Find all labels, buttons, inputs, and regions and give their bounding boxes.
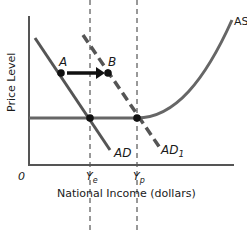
ad1-curve [83, 35, 160, 148]
point-b [104, 69, 112, 77]
yp-subscript: p [139, 176, 145, 185]
x-axis-label: National Income (dollars) [57, 187, 196, 200]
ad-label: AD [113, 146, 131, 160]
y-axis-label: Price Level [5, 53, 18, 112]
ad-curve [35, 38, 110, 150]
yp-tick-label: Yp [133, 170, 145, 185]
ad1-subscript: 1 [178, 149, 184, 159]
point-a-label: A [58, 55, 67, 69]
equilibrium-yp-point [133, 114, 141, 122]
origin-label: 0 [18, 170, 25, 183]
point-b-label: B [108, 55, 116, 69]
ye-tick-label: Ye [86, 170, 98, 185]
as-label: AS [234, 15, 247, 28]
shift-arrow-head-icon [96, 67, 105, 79]
ye-subscript: e [93, 176, 98, 185]
point-a [57, 69, 65, 77]
ad1-label: AD1 [160, 143, 184, 159]
as-curve [29, 20, 232, 118]
keynesian-ad-as-diagram: A B AD AD1 AS Price Level National Incom… [0, 0, 247, 230]
equilibrium-ye-point [86, 114, 94, 122]
